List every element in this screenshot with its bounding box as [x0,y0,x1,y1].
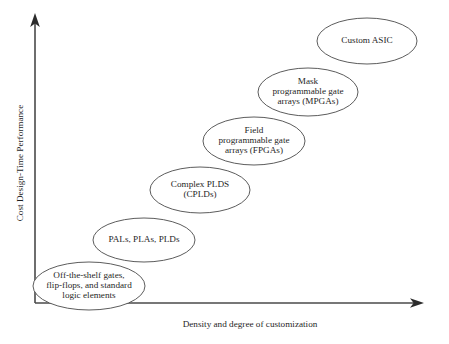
label-line: arrays (FPGAs) [225,146,283,156]
x-axis-label: Density and degree of customization [183,319,318,329]
label-line: programmable gate [218,135,289,145]
label-line: Custom ASIC [341,35,392,45]
label-line: arrays (MPGAs) [278,97,339,107]
label-line: Off-the-shelf gates, [53,270,124,280]
label-line: Complex PLDS [171,179,229,189]
ellipse-group [33,18,417,310]
label-pals-plas-plds: PALs, PLAs, PLDs [108,234,180,244]
diagram-canvas: Off-the-shelf gates,flip-flops, and stan… [0,0,449,344]
label-line: Field [245,125,264,135]
label-custom-asic: Custom ASIC [341,35,392,45]
label-line: Mask [298,76,319,86]
label-line: programmable gate [272,86,343,96]
y-axis-label: Cost Design-Time Performance [15,105,25,222]
label-line: logic elements [62,291,116,301]
label-line: PALs, PLAs, PLDs [108,234,180,244]
label-line: flip-flops, and standard [46,280,132,290]
label-line: (CPLDs) [183,189,216,199]
